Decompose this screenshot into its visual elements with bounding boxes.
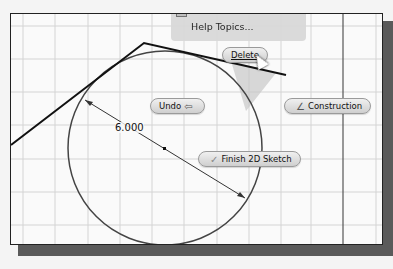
menu-item-help-topics[interactable]: Help Topics... <box>191 21 254 32</box>
grid <box>11 14 383 245</box>
construction-label: Construction <box>308 101 362 111</box>
finish-label: Finish 2D Sketch <box>221 154 291 164</box>
undo-button[interactable]: Undo ⇦ <box>150 98 205 114</box>
undo-label: Undo <box>159 101 181 111</box>
dimension-label[interactable]: 6.000 <box>115 122 144 133</box>
undo-arrow-icon: ⇦ <box>184 101 192 112</box>
circle-center-point <box>163 147 166 150</box>
menu-grip-icon <box>176 13 187 17</box>
checkmark-icon: ✓ <box>210 154 218 165</box>
context-menu: Help Topics... <box>171 13 306 41</box>
sketch-canvas[interactable]: 6.000 Help Topics... Delete Undo ⇦ ∠ Con… <box>10 13 383 245</box>
sketch-graphics <box>11 14 383 245</box>
construction-button[interactable]: ∠ Construction <box>284 98 371 114</box>
construction-icon: ∠ <box>296 101 305 112</box>
dimension-arrow-start <box>85 100 93 106</box>
finish-2d-sketch-button[interactable]: ✓ Finish 2D Sketch <box>198 151 301 167</box>
dimension-arrow-end <box>237 192 245 198</box>
